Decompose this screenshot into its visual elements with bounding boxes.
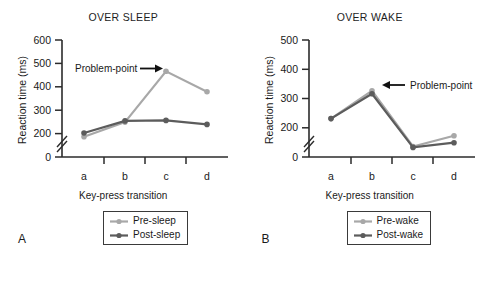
legend-swatch-post-sleep (109, 231, 129, 240)
legend-panel-b: Pre-wake Post-wake (347, 211, 432, 245)
y-tick-labels-a: 600 500 400 300 200 0 (33, 34, 51, 163)
data-point (81, 130, 87, 136)
y-axis-title-b: Reaction time (ms) (263, 56, 275, 144)
legend-label-pre-wake: Pre-wake (377, 215, 419, 227)
y-ticks-b (302, 40, 309, 157)
x-axis-title-a: Key-press transition (0, 190, 247, 201)
y-tick-label: 600 (33, 34, 51, 46)
x-tick-label: d (451, 170, 457, 182)
y-tick-label: 500 (33, 57, 51, 69)
y-tick-label: 300 (33, 104, 51, 116)
data-point (122, 118, 128, 124)
x-tick-label: a (81, 170, 87, 182)
panel-b-plot: 500 400 300 200 0 a b c d Reacti (247, 0, 493, 200)
y-axis-title-a: Reaction time (ms) (16, 56, 28, 144)
x-axis-title-b: Key-press transition (247, 190, 493, 201)
panel-b: OVER WAKE 500 400 300 200 0 (247, 0, 493, 286)
data-point (410, 145, 416, 151)
series-line-pre-wake (331, 91, 454, 147)
legend-panel-a: Pre-sleep Post-sleep (103, 211, 188, 245)
y-tick-label: 400 (280, 63, 298, 75)
annotation-arrow-b (382, 81, 405, 89)
panel-a: OVER SLEEP 600 500 400 300 200 (0, 0, 247, 286)
annotation-label-a: Problem-point (75, 63, 137, 74)
data-point (451, 133, 457, 139)
legend-item-pre-sleep[interactable]: Pre-sleep (109, 215, 180, 227)
legend-item-post-wake[interactable]: Post-wake (353, 229, 424, 241)
annotation-arrow-a (140, 65, 163, 73)
series-line-post-wake (331, 94, 454, 148)
y-tick-labels-b: 500 400 300 200 0 (280, 34, 298, 163)
legend-label-post-wake: Post-wake (377, 229, 424, 241)
data-point (204, 122, 210, 128)
legend-label-post-sleep: Post-sleep (133, 229, 180, 241)
legend-swatch-pre-wake (353, 217, 373, 226)
x-tick-label: d (204, 170, 210, 182)
y-tick-label: 400 (33, 80, 51, 92)
legend-swatch-post-wake (353, 231, 373, 240)
x-tick-label: b (369, 170, 375, 182)
y-tick-label: 0 (45, 151, 51, 163)
x-ticks-b (351, 157, 433, 164)
data-point (163, 69, 169, 75)
x-tick-labels-b: a b c d (328, 170, 457, 182)
panel-letter-a: A (18, 232, 26, 246)
x-tick-labels-a: a b c d (81, 170, 210, 182)
x-ticks-a (104, 157, 186, 164)
y-tick-label: 200 (280, 121, 298, 133)
legend-label-pre-sleep: Pre-sleep (133, 215, 176, 227)
data-point (451, 140, 457, 146)
data-point (328, 116, 334, 122)
legend-item-pre-wake[interactable]: Pre-wake (353, 215, 424, 227)
panel-letter-b: B (262, 232, 270, 246)
y-ticks-a (55, 40, 62, 157)
data-point (204, 89, 210, 95)
data-point (369, 91, 375, 97)
y-tick-label: 200 (33, 127, 51, 139)
annotation-label-b: Problem-point (410, 80, 472, 91)
x-tick-label: b (122, 170, 128, 182)
data-point (163, 118, 169, 124)
legend-swatch-pre-sleep (109, 217, 129, 226)
panel-a-plot: 600 500 400 300 200 0 a b (0, 0, 247, 200)
x-tick-label: c (163, 170, 168, 182)
x-tick-label: a (328, 170, 334, 182)
x-tick-label: c (410, 170, 415, 182)
figure-root: OVER SLEEP 600 500 400 300 200 (0, 0, 493, 286)
y-tick-label: 0 (292, 151, 298, 163)
y-tick-label: 500 (280, 34, 298, 46)
legend-item-post-sleep[interactable]: Post-sleep (109, 229, 180, 241)
y-tick-label: 300 (280, 92, 298, 104)
